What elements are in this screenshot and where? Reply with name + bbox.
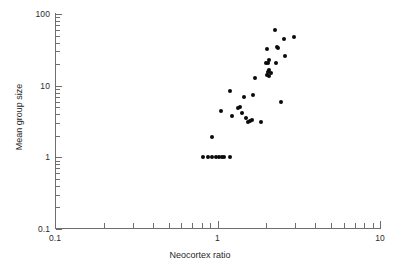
y-axis-tick-label: 10	[20, 81, 50, 91]
x-axis-tick-label: 0.1	[35, 233, 75, 243]
data-point	[251, 93, 255, 97]
data-point	[201, 155, 205, 159]
x-axis-major-tick	[380, 221, 381, 228]
data-point	[283, 54, 287, 58]
data-point	[210, 135, 214, 139]
data-point	[242, 95, 246, 99]
data-point	[265, 47, 269, 51]
data-point	[279, 100, 283, 104]
data-point	[253, 76, 257, 80]
data-point	[248, 119, 252, 123]
scatter-plot-figure: 0.1110100 0.1110 Mean group size Neocort…	[0, 0, 397, 271]
data-point	[259, 120, 263, 124]
plot-data-area	[55, 14, 380, 229]
data-point	[228, 89, 232, 93]
y-axis-title: Mean group size	[14, 57, 24, 177]
data-point	[228, 155, 232, 159]
data-point	[276, 46, 280, 50]
data-point	[222, 155, 226, 159]
data-point	[206, 155, 210, 159]
x-axis-tick-label: 10	[360, 233, 397, 243]
data-point	[274, 61, 278, 65]
x-axis-tick-label: 1	[198, 233, 238, 243]
data-point	[230, 114, 234, 118]
data-point	[236, 106, 240, 110]
data-point	[219, 109, 223, 113]
y-axis-tick-label: 1	[20, 152, 50, 162]
data-point	[240, 111, 244, 115]
data-point	[266, 61, 270, 65]
x-axis-title: Neocortex ratio	[120, 250, 280, 260]
y-axis-tick-label: 100	[20, 9, 50, 19]
data-point	[282, 37, 286, 41]
data-point	[292, 35, 296, 39]
data-point	[273, 28, 277, 32]
y-axis-major-tick	[56, 229, 62, 230]
